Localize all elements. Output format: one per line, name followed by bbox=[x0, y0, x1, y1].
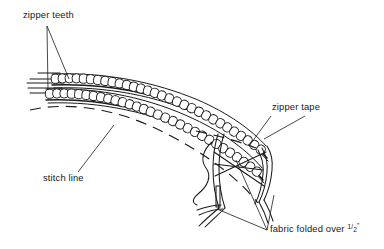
zipper-diagram: zipper teeth zipper tape stitch line fab… bbox=[0, 0, 384, 249]
leader-zipper-teeth-lower bbox=[47, 26, 48, 90]
label-stitch-line: stitch line bbox=[43, 172, 84, 183]
label-fabric-folded-unit: " bbox=[357, 222, 360, 229]
label-zipper-teeth: zipper teeth bbox=[23, 9, 74, 20]
label-fabric-folded-text: fabric folded over bbox=[270, 223, 347, 234]
label-zipper-tape: zipper tape bbox=[272, 101, 320, 112]
leader-zipper-tape-b bbox=[264, 116, 305, 139]
fabric-bottom-right bbox=[264, 200, 273, 221]
leader-stitch-line bbox=[78, 125, 114, 172]
leader-lines-group bbox=[47, 26, 305, 230]
fabric-loose-edge bbox=[193, 142, 212, 205]
labels-group: zipper teeth zipper tape stitch line fab… bbox=[23, 9, 360, 234]
diagram-canvas: zipper teeth zipper tape stitch line fab… bbox=[0, 0, 384, 249]
leader-zipper-tape-a bbox=[249, 116, 271, 146]
leader-zipper-teeth-upper bbox=[47, 26, 69, 79]
label-fabric-folded: fabric folded over 1/2" bbox=[270, 222, 360, 234]
